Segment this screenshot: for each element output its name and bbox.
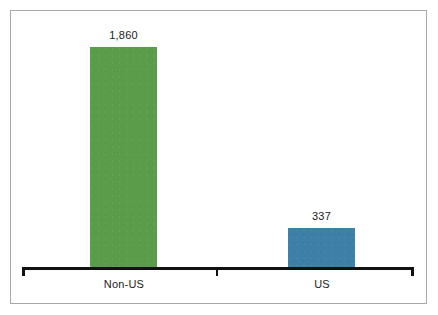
- chart-plot-area: 1,860 337 Non-US US: [0, 0, 438, 315]
- x-axis-tick-left: [22, 267, 25, 276]
- x-axis-tick-right: [411, 267, 414, 276]
- x-axis-line: [22, 267, 414, 270]
- chart-page: 1,860 337 Non-US US: [0, 0, 438, 315]
- bar-value-label-non-us: 1,860: [90, 29, 157, 41]
- x-axis-label-non-us: Non-US: [80, 278, 168, 290]
- bar-value-label-us: 337: [288, 210, 355, 222]
- x-axis-label-us: US: [278, 278, 366, 290]
- bar-us[interactable]: [288, 228, 355, 267]
- bar-non-us[interactable]: [90, 47, 157, 267]
- x-axis-tick-center: [216, 270, 218, 276]
